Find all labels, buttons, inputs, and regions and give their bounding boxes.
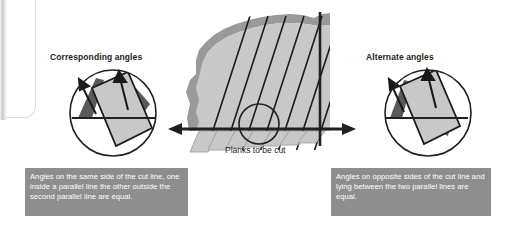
left-arrow-head xyxy=(168,123,182,135)
planks-caption: Planks to be cut xyxy=(225,145,285,155)
corresponding-angles-note: Angles on the same side of the cut line,… xyxy=(25,168,188,216)
corresponding-angles-detail xyxy=(70,70,156,156)
alternate-angles-note: Angles on opposite sides of the cut line… xyxy=(331,168,491,216)
alternate-angles-title: Alternate angles xyxy=(366,52,434,62)
angles-diagram-figure: Corresponding angles Alternate angles Pl… xyxy=(0,0,505,235)
corresponding-angles-title: Corresponding angles xyxy=(50,52,142,62)
planks-group xyxy=(186,12,358,152)
right-arrow-head xyxy=(342,123,356,135)
alternate-angles-detail xyxy=(384,69,471,156)
